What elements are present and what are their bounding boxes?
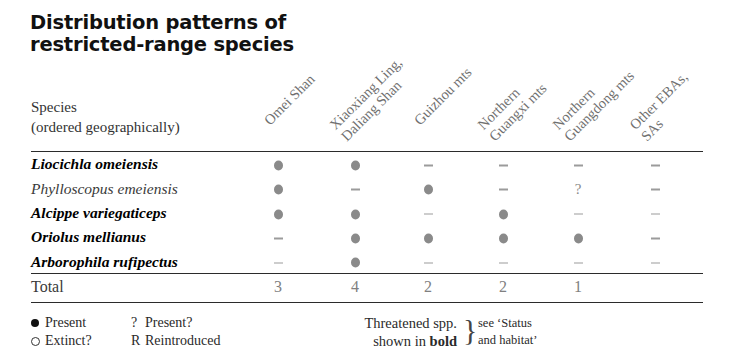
species-name: Oriolus mellianus [31,228,146,246]
present-marker-icon [499,209,508,219]
table-row: Alcippe variegaticeps [0,201,738,225]
cell-northern-guangdong: ? [565,180,591,197]
present-marker-icon [351,160,360,170]
absent-marker-icon [651,164,660,166]
absent-marker-icon [651,238,660,240]
total-northern-guangdong: 1 [565,278,591,296]
total-row: Total 34221 [0,274,738,302]
cell-northern-guangxi [490,204,516,221]
column-header-other-ebas-sas: Other EBAs,SAs [626,68,702,144]
cell-other-ebas-sas [642,180,668,197]
legend-present-label: Present [45,315,86,330]
brace-icon: } [463,313,477,347]
table-figure: Distribution patterns of restricted-rang… [0,0,738,351]
absent-marker-icon [574,213,583,215]
present-marker-icon [274,160,283,170]
cell-guizhou-mts [415,156,441,173]
absent-marker-icon [424,262,433,264]
column-header-northern-guangxi: NorthernGuangxi mts [474,69,549,144]
present-marker-icon [274,185,283,195]
cell-northern-guangdong [565,204,591,221]
total-northern-guangxi: 2 [490,278,516,296]
absent-marker-icon [651,189,660,191]
legend-item-query: ?Present? [131,314,220,332]
cell-omei-shan [265,229,291,246]
absent-marker-icon [499,189,508,191]
cell-guizhou-mts [415,253,441,270]
cell-northern-guangxi [490,180,516,197]
cell-other-ebas-sas [642,229,668,246]
cell-omei-shan [265,204,291,221]
total-xiaoxiang-daliang: 4 [342,278,368,296]
present-marker-icon [351,258,360,268]
column-header-line-1: Guizhou mts [411,64,475,128]
present-marker-icon [274,209,283,219]
table-row: Oriolus mellianus [0,225,738,249]
total-label: Total [31,278,64,296]
question-mark-icon: ? [131,314,145,332]
absent-marker-icon [424,213,433,215]
legend-threatened-note: Threatened spp. shown in bold [317,314,457,350]
legend-status-line-1: see ‘Status [478,315,537,332]
legend-threatened-line-2: shown in bold [317,332,457,350]
table-body: Liocichla omeiensisPhylloscopus emeiensi… [0,152,738,274]
cell-other-ebas-sas [642,204,668,221]
cell-northern-guangdong [565,253,591,270]
filled-circle-icon [31,314,45,332]
species-name: Arborophila rufipectus [31,253,178,271]
species-name: Phylloscopus emeiensis [31,180,178,198]
legend-reintroduced-label: Reintroduced [145,333,220,348]
cell-northern-guangxi [490,156,516,173]
legend-column-letters: ?Present? RReintroduced [131,314,220,350]
table-row: Liocichla omeiensis [0,152,738,176]
cell-xiaoxiang-daliang [342,156,368,173]
cell-xiaoxiang-daliang [342,204,368,221]
cell-omei-shan [265,180,291,197]
column-header-xiaoxiang-daliang: Xiaoxiang Ling,Daliang Shan [326,54,416,144]
present-marker-icon [351,233,360,243]
table-row: Arborophila rufipectus [0,250,738,274]
absent-marker-icon [351,189,360,191]
absent-marker-icon [274,262,283,264]
absent-marker-icon [651,262,660,264]
cell-guizhou-mts [415,229,441,246]
cell-guizhou-mts [415,180,441,197]
absent-marker-icon [274,238,283,240]
absent-marker-icon [574,164,583,166]
legend-column-symbols: Present Extinct? [31,314,92,350]
absent-marker-icon [499,262,508,264]
total-omei-shan: 3 [265,278,291,296]
cell-omei-shan [265,156,291,173]
present-marker-icon [424,233,433,243]
table-row: Phylloscopus emeiensis? [0,176,738,200]
legend-extinct-label: Extinct? [45,333,92,348]
legend-query-label: Present? [145,315,192,330]
cell-northern-guangxi [490,253,516,270]
open-circle-icon [31,332,45,350]
column-header-line-1: Omei Shan [261,71,318,128]
cell-northern-guangdong [565,156,591,173]
species-name: Liocichla omeiensis [31,155,158,173]
column-headers: Omei ShanXiaoxiang Ling,Daliang ShanGuiz… [0,0,738,152]
absent-marker-icon [499,164,508,166]
cell-other-ebas-sas [642,253,668,270]
column-header-guizhou-mts: Guizhou mts [411,64,475,128]
present-marker-icon [499,233,508,243]
cell-guizhou-mts [415,204,441,221]
legend-threatened-line-1: Threatened spp. [317,314,457,332]
legend-status-note: see ‘Status and habitat’ [478,315,537,349]
cell-xiaoxiang-daliang [342,253,368,270]
legend-threatened-prefix: shown in [373,333,429,349]
legend-item-reintroduced: RReintroduced [131,332,220,350]
cell-xiaoxiang-daliang [342,229,368,246]
absent-marker-icon [574,262,583,264]
legend-item-present: Present [31,314,92,332]
cell-xiaoxiang-daliang [342,180,368,197]
present-marker-icon [424,185,433,195]
cell-other-ebas-sas [642,156,668,173]
legend-item-extinct: Extinct? [31,332,92,350]
total-guizhou-mts: 2 [415,278,441,296]
present-marker-icon [351,209,360,219]
legend-threatened-bold: bold [430,333,457,349]
legend-status-line-2: and habitat’ [478,332,537,349]
